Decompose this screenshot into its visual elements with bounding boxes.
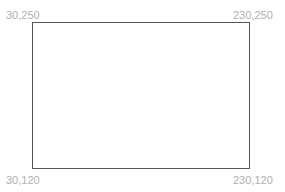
label-top-right: 230,250 (233, 9, 273, 21)
label-top-left: 30,250 (6, 9, 40, 21)
label-bottom-left: 30,120 (6, 174, 40, 186)
rectangle-shape (32, 22, 250, 169)
label-bottom-right: 230,120 (233, 174, 273, 186)
